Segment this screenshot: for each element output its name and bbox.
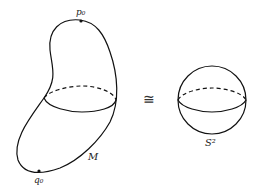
label-s2: S² bbox=[205, 137, 216, 148]
sphere-s2 bbox=[178, 66, 246, 134]
surface-m bbox=[17, 20, 117, 173]
label-m: M bbox=[87, 151, 99, 162]
point-p0 bbox=[79, 19, 82, 22]
homeomorphic-symbol: ≅ bbox=[143, 91, 155, 107]
point-q0 bbox=[37, 169, 40, 172]
label-q0: q₀ bbox=[34, 175, 44, 185]
homeomorphism-diagram: p₀ q₀ M ≅ S² bbox=[0, 0, 261, 191]
label-p0: p₀ bbox=[76, 7, 86, 17]
